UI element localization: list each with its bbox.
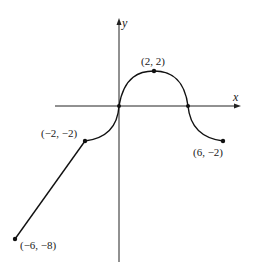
label-2-2: (2, 2)	[141, 55, 165, 68]
point-origin	[117, 104, 121, 108]
y-axis-arrow-icon	[117, 18, 122, 25]
point-2-2	[152, 69, 156, 73]
label-6-neg2: (6, −2)	[193, 146, 223, 159]
y-axis-label: y	[121, 16, 128, 30]
label-neg6-neg8: (−6, −8)	[20, 239, 57, 252]
x-axis-label: x	[232, 90, 239, 104]
function-graph: x y (−6, −8) (−2, −2) (2, 2) (6, −2)	[0, 0, 256, 273]
graph-arc-left	[85, 106, 119, 141]
graph-line-segment	[15, 141, 85, 239]
point-neg2-neg2	[83, 139, 87, 143]
x-axis-arrow-icon	[234, 104, 241, 109]
label-neg2-neg2: (−2, −2)	[41, 127, 78, 140]
point-4-0	[186, 104, 190, 108]
point-6-neg2	[221, 139, 225, 143]
graph-arch	[119, 71, 188, 106]
graph-arc-right	[188, 106, 223, 141]
point-neg6-neg8	[13, 237, 17, 241]
